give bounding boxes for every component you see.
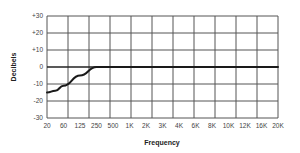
x-tick-label: 4K bbox=[175, 122, 184, 129]
y-tick-label: 0 bbox=[39, 63, 43, 70]
x-tick-label: 3K bbox=[159, 122, 168, 129]
y-tick-label: +30 bbox=[32, 12, 43, 19]
x-tick-label: 8K bbox=[208, 122, 217, 129]
eq-curve-path bbox=[47, 67, 278, 93]
x-tick-label: 20K bbox=[272, 122, 284, 129]
x-tick-label: 10K bbox=[223, 122, 235, 129]
x-tick-label: 500 bbox=[108, 122, 119, 129]
x-tick-label: 20 bbox=[43, 122, 51, 129]
y-tick-label: +20 bbox=[32, 29, 43, 36]
x-tick-label: 6K bbox=[192, 122, 201, 129]
x-tick-label: 2K bbox=[142, 122, 151, 129]
x-axis-label: Frequency bbox=[144, 139, 180, 147]
y-axis-label: Decibels bbox=[10, 52, 17, 81]
y-axis-ticks: +30+20+100-10-20-30 bbox=[32, 12, 43, 121]
y-tick-label: -20 bbox=[34, 97, 44, 104]
x-tick-label: 60 bbox=[60, 122, 68, 129]
y-tick-label: -30 bbox=[34, 114, 44, 121]
x-tick-label: 250 bbox=[91, 122, 102, 129]
x-tick-label: 16K bbox=[256, 122, 268, 129]
response-curve bbox=[47, 67, 278, 93]
y-tick-label: -10 bbox=[34, 80, 44, 87]
x-tick-label: 1K bbox=[126, 122, 135, 129]
frequency-response-chart: +30+20+100-10-20-30 20601252505001K2K3K4… bbox=[0, 0, 300, 153]
x-axis-ticks: 20601252505001K2K3K4K6K8K10K12K16K20K bbox=[43, 122, 284, 129]
x-tick-label: 125 bbox=[75, 122, 86, 129]
x-tick-label: 12K bbox=[239, 122, 251, 129]
y-tick-label: +10 bbox=[32, 46, 43, 53]
